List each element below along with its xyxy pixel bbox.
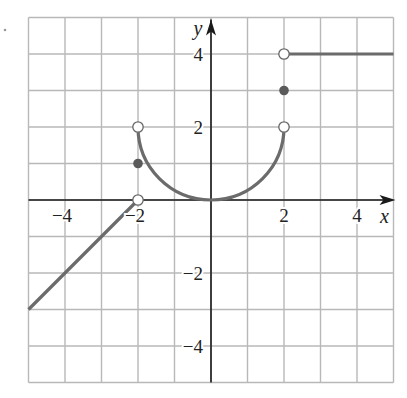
open-point [279, 49, 289, 59]
closed-point [133, 159, 143, 169]
y-tick-label: −4 [183, 336, 204, 357]
closed-point [279, 86, 289, 96]
linear-segment [29, 200, 139, 310]
y-axis-label: y [192, 17, 203, 40]
y-tick-label: −2 [183, 263, 203, 284]
function-graph: −4−22442−2−4xy [0, 0, 407, 398]
open-point [133, 195, 143, 205]
open-point [279, 122, 289, 132]
y-tick-label: 2 [194, 117, 204, 138]
x-tick-label: −4 [52, 205, 73, 226]
x-tick-label: 4 [352, 205, 362, 226]
tick-labels: −4−22442−2−4xy [52, 17, 389, 358]
page-speck [4, 29, 7, 32]
x-axis-label: x [379, 205, 389, 227]
open-point [133, 122, 143, 132]
x-tick-label: 2 [279, 205, 289, 226]
y-tick-label: 4 [194, 44, 204, 65]
x-tick-label: −2 [125, 205, 145, 226]
